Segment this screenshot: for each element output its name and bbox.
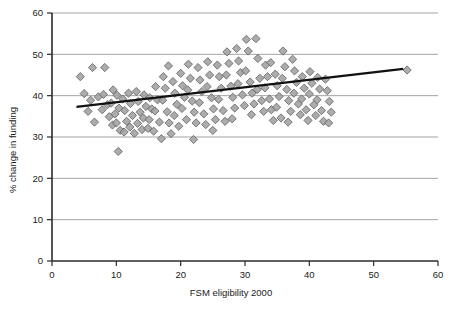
scatter-chart: 01020304050600102030405060 FSM eligibili… (0, 0, 460, 310)
axis-title-layer: FSM eligibility 2000 % change in funding (0, 0, 460, 310)
x-axis-title: FSM eligibility 2000 (190, 287, 272, 298)
y-axis-title: % change in funding (7, 107, 18, 193)
